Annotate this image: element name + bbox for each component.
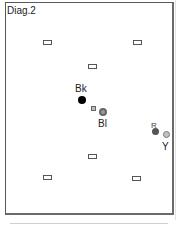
rect-top-right — [133, 40, 142, 45]
rect-bottom-right — [132, 176, 141, 181]
diagram-title: Diag.2 — [7, 6, 36, 16]
small-square-marker — [91, 106, 96, 111]
bottom-rule — [10, 223, 168, 224]
label-y: Y — [162, 142, 169, 152]
diagram-frame — [5, 2, 174, 215]
rect-bottom-left — [43, 175, 52, 180]
label-bl: Bl — [98, 119, 107, 129]
scan-edge — [175, 0, 176, 220]
rect-upper-center — [88, 64, 97, 69]
rect-lower-center — [88, 154, 97, 159]
label-bk: Bk — [75, 84, 87, 94]
point-bl — [99, 108, 107, 116]
point-bk — [78, 96, 86, 104]
point-y — [163, 131, 170, 138]
rect-top-left — [43, 40, 52, 45]
point-r — [152, 128, 159, 135]
